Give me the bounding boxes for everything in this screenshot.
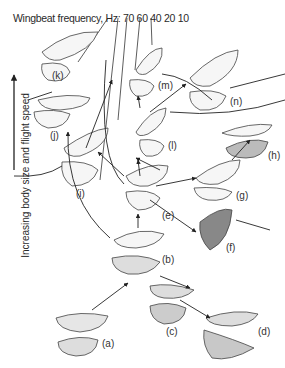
wing-n-fore (190, 50, 238, 86)
label-g: (g) (236, 190, 248, 201)
wing-e-hind (126, 191, 160, 210)
label-h: (h) (268, 150, 280, 161)
label-f: (f) (226, 242, 235, 253)
wing-h-fore (222, 124, 272, 136)
wing-j-hind (34, 110, 70, 128)
wing-g-hind (194, 188, 232, 201)
wing-b-fore (114, 231, 164, 248)
label-c: (c) (166, 326, 178, 337)
label-k: (k) (52, 70, 64, 81)
wing-e-fore (126, 165, 168, 186)
label-j: (j) (50, 130, 59, 141)
label-i: (i) (76, 188, 85, 199)
wing-l-fore (136, 108, 166, 136)
wing-evolution-diagram (0, 0, 285, 368)
label-a: (a) (102, 338, 114, 349)
wing-a-hind (58, 337, 98, 356)
wing-m-fore (136, 48, 162, 75)
wing-j-fore (38, 95, 90, 110)
wing-b-hind (112, 256, 160, 275)
wing-l-hind (140, 140, 164, 157)
label-n: (n) (230, 96, 242, 107)
wing-a-fore (56, 313, 108, 332)
wing-k-fore (42, 32, 98, 61)
wing-c-hind (150, 303, 186, 324)
label-m: (m) (158, 80, 173, 91)
wing-d-fore (206, 312, 258, 326)
wing-i-hind (62, 162, 98, 186)
wing-d-hind (204, 330, 254, 359)
wing-m-hind (130, 80, 154, 97)
label-d: (d) (258, 326, 270, 337)
label-b: (b) (162, 254, 174, 265)
label-l: (l) (168, 140, 177, 151)
wing-g-fore (196, 160, 240, 184)
label-e: (e) (162, 210, 174, 221)
wing-i-fore (64, 128, 108, 156)
wing-n-hind (190, 91, 226, 111)
